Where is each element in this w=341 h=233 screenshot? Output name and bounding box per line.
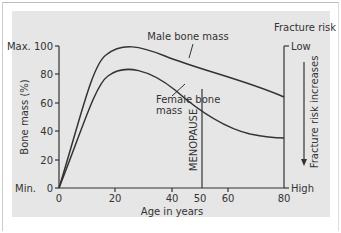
male-bone-mass-line — [59, 47, 284, 188]
male-annotation: Male bone mass — [147, 31, 228, 42]
fracture-risk-increases-label: Fracture risk increases — [309, 56, 320, 169]
y-tick-20: 20 — [40, 155, 53, 166]
svg-text:80: 80 — [278, 193, 291, 204]
svg-text:40: 40 — [166, 193, 179, 204]
svg-text:20: 20 — [109, 193, 122, 204]
female-bone-mass-line — [59, 69, 284, 188]
svg-text:50: 50 — [194, 193, 207, 204]
female-annotation-line2: mass — [156, 105, 182, 116]
menopause-label: MENOPAUSE — [188, 109, 199, 172]
arrow-down-icon — [301, 159, 307, 166]
y-tick-100: Max. 100 — [7, 41, 53, 52]
x-tick-labels: 0 20 40 50 60 80 — [56, 193, 291, 204]
y-tick-0: 0 — [47, 183, 53, 194]
fracture-risk-title: Fracture risk — [274, 22, 336, 33]
svg-text:0: 0 — [56, 193, 62, 204]
fracture-risk-low: Low — [291, 41, 311, 52]
y-axis-label: Bone mass (%) — [19, 79, 30, 155]
fracture-risk-high: High — [291, 183, 314, 194]
y-tick-40: 40 — [40, 126, 53, 137]
x-axis-label: Age in years — [141, 206, 203, 217]
female-annotation-line1: Female bone — [156, 94, 220, 105]
svg-text:60: 60 — [222, 193, 235, 204]
y-tick-80: 80 — [40, 69, 53, 80]
axes — [55, 46, 289, 192]
y-min-label: Min. — [15, 183, 36, 194]
bone-mass-chart: Max. 100 80 60 40 20 0 Min. 0 20 40 50 6… — [0, 0, 341, 233]
y-tick-60: 60 — [40, 98, 53, 109]
